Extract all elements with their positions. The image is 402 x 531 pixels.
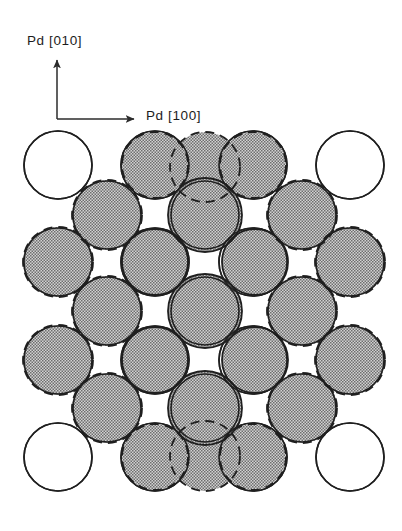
axis-label-vertical: Pd [010] [27, 33, 82, 48]
axis-label-horizontal: Pd [100] [146, 108, 201, 123]
crystal-structure-diagram: Pd [010] Pd [100] [0, 0, 402, 531]
